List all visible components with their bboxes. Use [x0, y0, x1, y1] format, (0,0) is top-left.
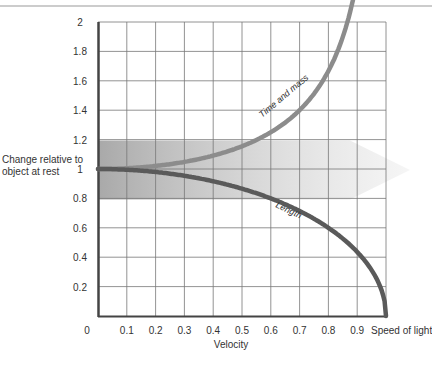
- y-tick-label: 2: [77, 17, 83, 28]
- x-tick-labels: 00.10.20.30.40.50.60.70.80.9: [84, 325, 364, 336]
- y-tick-label: 1: [77, 164, 83, 175]
- x-tick-label: 0.6: [264, 325, 278, 336]
- y-tick-label: 0.2: [73, 282, 87, 293]
- y-tick-label: 0.4: [73, 252, 87, 263]
- relativity-chart: Time and mass Length 21.81.61.41.210.80.…: [0, 0, 432, 365]
- y-tick-label: 1.8: [73, 46, 87, 57]
- y-axis-label-line2: object at rest: [2, 166, 59, 177]
- y-tick-label: 1.2: [73, 135, 87, 146]
- x-tick-label: 0.9: [350, 325, 364, 336]
- x-tick-label: 0.8: [321, 325, 335, 336]
- y-axis-label-line1: Change relative to: [2, 154, 84, 165]
- x-tick-label: 0.5: [235, 325, 249, 336]
- x-axis-end-label: Speed of light: [371, 325, 432, 336]
- x-axis-label: Velocity: [214, 339, 248, 350]
- y-tick-label: 1.6: [73, 76, 87, 87]
- x-tick-label: 0.2: [149, 325, 163, 336]
- y-tick-label: 1.4: [73, 105, 87, 116]
- length-label: Length: [274, 200, 303, 221]
- y-tick-label: 0.6: [73, 223, 87, 234]
- x-tick-label: 0.4: [206, 325, 220, 336]
- time-and-mass-label: Time and mass: [257, 72, 311, 119]
- x-tick-label: 0.7: [293, 325, 307, 336]
- x-tick-label: 0.3: [177, 325, 191, 336]
- x-tick-label: 0.1: [120, 325, 134, 336]
- y-tick-label: 0.8: [73, 193, 87, 204]
- x-tick-label: 0: [84, 325, 90, 336]
